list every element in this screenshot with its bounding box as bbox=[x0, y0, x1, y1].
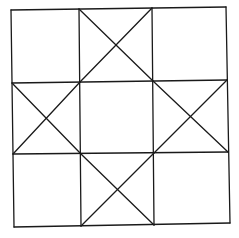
cell-diagonal-0-1-b bbox=[80, 8, 152, 82]
grid-line-vertical-3 bbox=[226, 7, 230, 223]
cell-diagonal-1-2-b bbox=[154, 80, 227, 153]
grid-line-vertical-0 bbox=[11, 10, 14, 227]
grid-line-horizontal-1 bbox=[12, 80, 227, 83]
grid-line-horizontal-2 bbox=[13, 152, 228, 154]
grid-diagram bbox=[0, 0, 239, 238]
grid-cells bbox=[11, 7, 230, 227]
grid-line-horizontal-3 bbox=[14, 223, 230, 227]
grid-line-vertical-2 bbox=[152, 8, 154, 225]
grid-line-horizontal-0 bbox=[11, 7, 226, 10]
grid-line-vertical-1 bbox=[79, 9, 81, 226]
